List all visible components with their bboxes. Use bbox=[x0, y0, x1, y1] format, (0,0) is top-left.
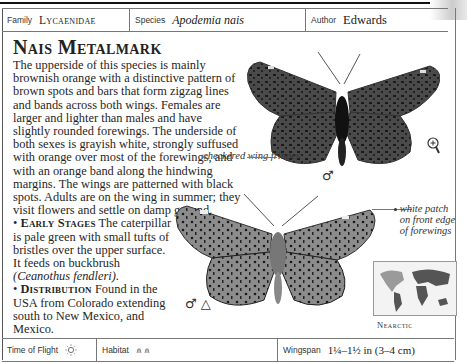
host-plant: (Ceanothus fendleri). bbox=[13, 269, 119, 283]
species-value: Apodemia nais bbox=[172, 13, 244, 28]
wingspan-label: Wingspan bbox=[283, 345, 321, 355]
family-label: Family bbox=[7, 15, 32, 25]
distribution-heading: Distribution bbox=[20, 282, 91, 296]
time-of-flight-cell: Time of Flight bbox=[2, 339, 97, 361]
male-female-symbols: ♂ △ bbox=[185, 296, 211, 311]
distribution-map bbox=[373, 261, 457, 316]
habitat-label: Habitat bbox=[102, 345, 129, 355]
male-symbol: ♂ bbox=[322, 168, 334, 183]
author-value: Edwards bbox=[343, 13, 387, 28]
habitat-cell: Habitat bbox=[97, 339, 278, 361]
author-cell: Author Edwards bbox=[306, 9, 448, 31]
taxonomy-header: Family Lycaenidae Species Apodemia nais … bbox=[2, 8, 448, 32]
callout-checkered-fringes: checkered wing fringes bbox=[203, 150, 300, 161]
distribution-section: • Distribution Found in the USA from Col… bbox=[13, 283, 178, 336]
family-value: Lycaenidae bbox=[39, 14, 96, 26]
wingspan-cell: Wingspan 1¼–1½ in (3–4 cm) bbox=[278, 339, 454, 361]
callout-dot bbox=[394, 208, 397, 211]
facts-footer: Time of Flight Habitat Wingspan 1¼–1½ in… bbox=[2, 338, 454, 362]
species-title: Nais Metalmark bbox=[13, 36, 162, 59]
species-cell: Species Apodemia nais bbox=[130, 9, 306, 31]
magnifier-plus-icon[interactable] bbox=[427, 137, 441, 155]
wingspan-value: 1¼–1½ in (3–4 cm) bbox=[328, 344, 415, 356]
butterfly-underside-illustration bbox=[172, 188, 382, 313]
author-label: Author bbox=[311, 15, 336, 25]
species-label: Species bbox=[135, 15, 165, 25]
callout-leader bbox=[247, 157, 277, 158]
sun-icon bbox=[65, 344, 77, 356]
callout-white-patch-text: white patch on front edge of forewings bbox=[400, 203, 456, 236]
early-stages-heading: Early Stages bbox=[20, 216, 95, 230]
callout-white-patch: white patch on front edge of forewings bbox=[394, 203, 456, 236]
early-stages-section: • Early Stages The caterpillar is pale g… bbox=[13, 217, 173, 283]
top-rule bbox=[0, 2, 430, 4]
world-map-graphic bbox=[374, 262, 456, 315]
grassland-icon bbox=[136, 346, 152, 354]
family-cell: Family Lycaenidae bbox=[2, 9, 130, 31]
time-of-flight-label: Time of Flight bbox=[7, 345, 58, 355]
biogeographic-region-label: Nearctic bbox=[377, 320, 413, 330]
